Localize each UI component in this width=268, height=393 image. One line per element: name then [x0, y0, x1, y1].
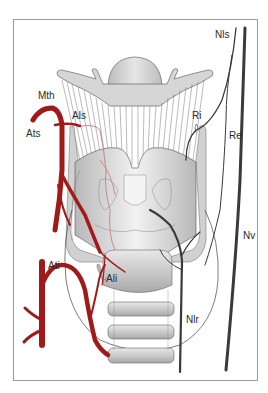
label-ali: Ali: [106, 274, 117, 284]
label-ati: Ati: [48, 261, 60, 271]
tracheal-rings: [108, 290, 174, 363]
tracheal-ring-1: [108, 302, 174, 316]
label-re: Re: [229, 131, 242, 141]
label-nlr: Nlr: [186, 315, 199, 325]
cricoid-cartilage: [97, 250, 172, 293]
epiglottis: [108, 57, 162, 85]
tracheal-ring-3: [108, 348, 174, 363]
inferior-thyroid-artery: [24, 262, 108, 355]
tracheal-ring-2: [108, 325, 174, 339]
label-ats: Ats: [26, 129, 40, 139]
label-nv: Nv: [243, 231, 255, 241]
label-mth: Mth: [38, 91, 55, 101]
larynx-illustration: [0, 0, 268, 393]
label-ri: Ri: [192, 111, 201, 121]
thyroid-cartilage: [66, 126, 206, 262]
larynx-diagram: Nls Mth Als Ri Ats Re Nv Ati Ali Nlr: [0, 0, 268, 393]
label-als: Als: [72, 111, 86, 121]
label-nls: Nls: [215, 30, 229, 40]
